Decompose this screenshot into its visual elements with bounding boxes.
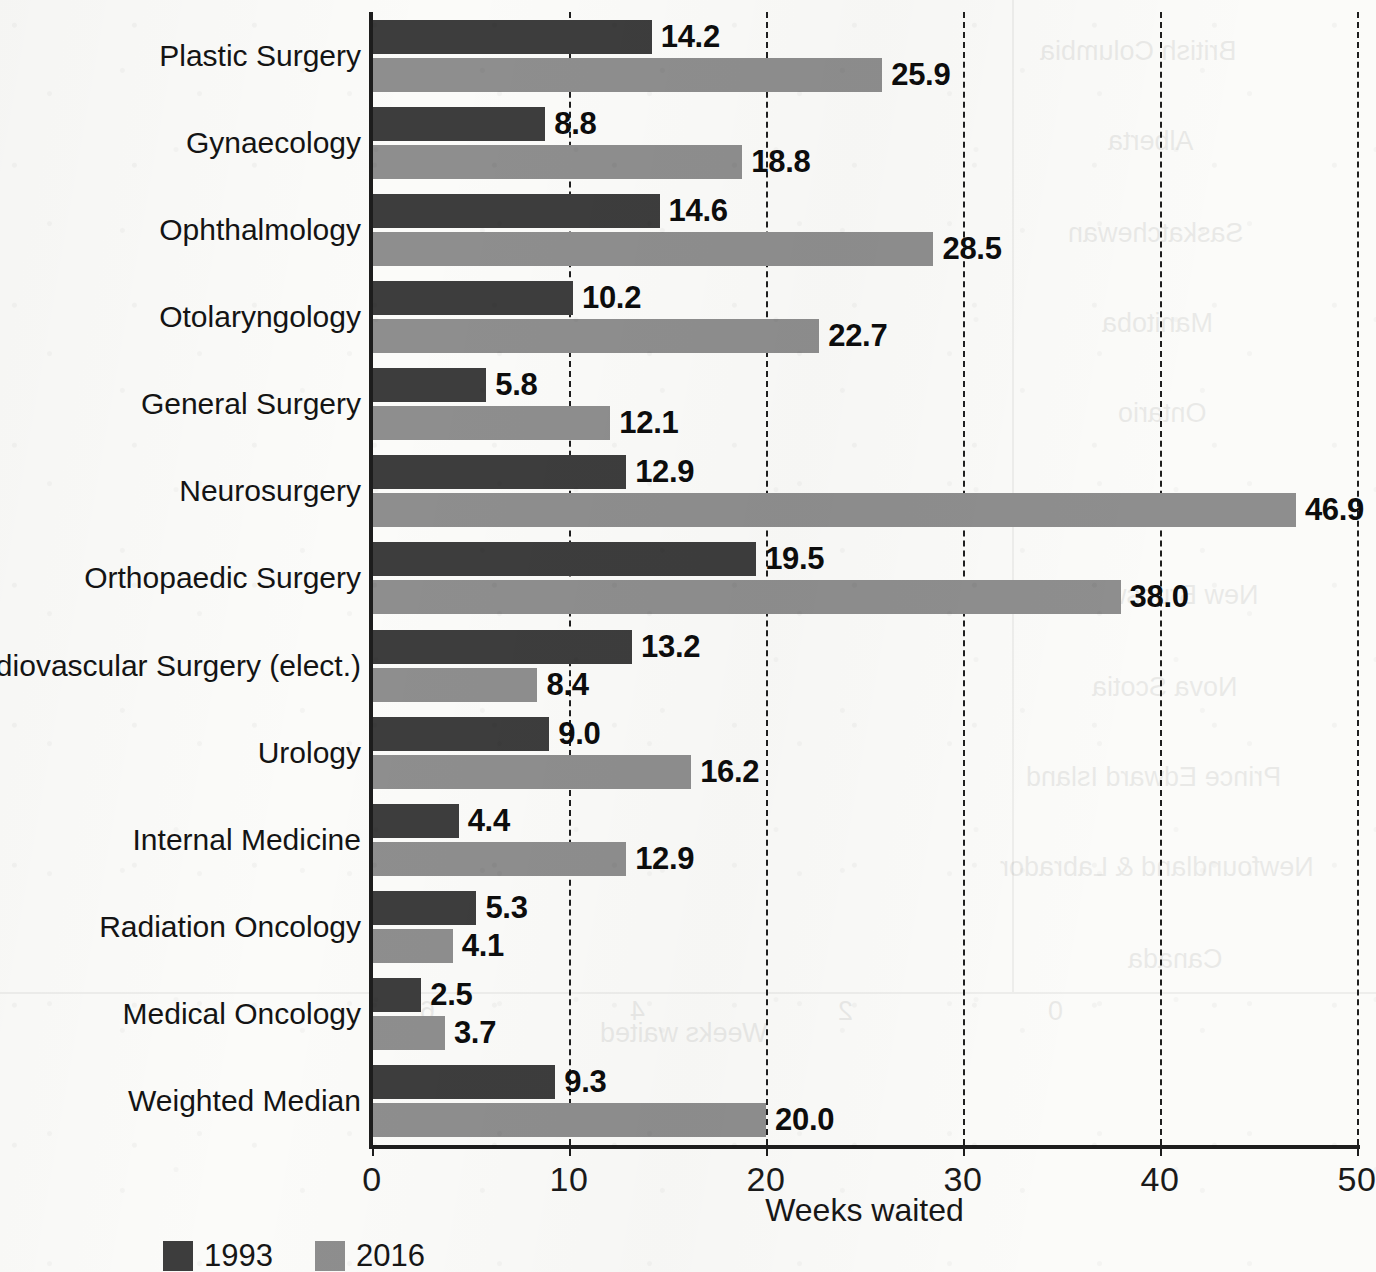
category-label: Weighted Median bbox=[0, 1086, 361, 1116]
gridline-50 bbox=[1357, 12, 1359, 1145]
bar-row: Radiation Oncology5.34.1 bbox=[372, 884, 1357, 971]
bar-1993[interactable] bbox=[372, 194, 660, 228]
bar-1993[interactable] bbox=[372, 455, 626, 489]
x-tick-mark-10 bbox=[569, 1145, 571, 1156]
x-tick-mark-50 bbox=[1357, 1145, 1359, 1156]
legend-label-1993: 1993 bbox=[204, 1240, 273, 1271]
category-label: Gynaecology bbox=[0, 128, 361, 158]
category-label: Radiation Oncology bbox=[0, 912, 361, 942]
bar-value-label: 13.2 bbox=[641, 630, 700, 664]
x-tick-mark-30 bbox=[963, 1145, 965, 1156]
legend-label-2016: 2016 bbox=[356, 1240, 425, 1271]
bar-row: Cardiovascular Surgery (elect.)13.28.4 bbox=[372, 622, 1357, 709]
bar-2016[interactable] bbox=[372, 406, 610, 440]
bar-value-label: 5.3 bbox=[485, 891, 527, 925]
bar-row: Internal Medicine4.412.9 bbox=[372, 796, 1357, 883]
x-tick-mark-20 bbox=[766, 1145, 768, 1156]
bar-value-label: 3.7 bbox=[454, 1016, 496, 1050]
bar-row: Neurosurgery12.946.9 bbox=[372, 448, 1357, 535]
bar-value-label: 20.0 bbox=[775, 1103, 834, 1137]
bar-value-label: 19.5 bbox=[765, 542, 824, 576]
bar-2016[interactable] bbox=[372, 145, 742, 179]
bar-1993[interactable] bbox=[372, 630, 632, 664]
legend-swatch-icon-1993 bbox=[163, 1241, 193, 1271]
bar-1993[interactable] bbox=[372, 20, 652, 54]
bar-row: Orthopaedic Surgery19.538.0 bbox=[372, 535, 1357, 622]
bar-row: Gynaecology8.818.8 bbox=[372, 99, 1357, 186]
legend-swatch-icon-2016 bbox=[315, 1241, 345, 1271]
bar-1993[interactable] bbox=[372, 891, 476, 925]
bar-2016[interactable] bbox=[372, 668, 537, 702]
bar-1993[interactable] bbox=[372, 542, 756, 576]
bar-value-label: 8.4 bbox=[546, 668, 588, 702]
bar-value-label: 46.9 bbox=[1305, 493, 1364, 527]
chart-legend: 1993 2016 bbox=[163, 1240, 425, 1271]
bar-2016[interactable] bbox=[372, 842, 626, 876]
category-label: Medical Oncology bbox=[0, 999, 361, 1029]
bar-2016[interactable] bbox=[372, 493, 1296, 527]
bar-value-label: 9.0 bbox=[558, 717, 600, 751]
bar-value-label: 5.8 bbox=[495, 368, 537, 402]
x-tick-mark-40 bbox=[1160, 1145, 1162, 1156]
bar-1993[interactable] bbox=[372, 978, 421, 1012]
bar-value-label: 10.2 bbox=[582, 281, 641, 315]
bar-value-label: 38.0 bbox=[1130, 580, 1189, 614]
bar-1993[interactable] bbox=[372, 107, 545, 141]
y-axis-line bbox=[369, 12, 373, 1145]
bar-row: Otolaryngology10.222.7 bbox=[372, 273, 1357, 360]
bar-value-label: 4.1 bbox=[462, 929, 504, 963]
category-label: Otolaryngology bbox=[0, 302, 361, 332]
bar-value-label: 18.8 bbox=[751, 145, 810, 179]
category-label: Neurosurgery bbox=[0, 476, 361, 506]
bar-2016[interactable] bbox=[372, 319, 819, 353]
bar-1993[interactable] bbox=[372, 717, 549, 751]
category-label: Ophthalmology bbox=[0, 215, 361, 245]
bar-row: Ophthalmology14.628.5 bbox=[372, 186, 1357, 273]
x-tick-mark-0 bbox=[372, 1145, 374, 1156]
bar-1993[interactable] bbox=[372, 804, 459, 838]
bar-value-label: 12.1 bbox=[619, 406, 678, 440]
bar-value-label: 16.2 bbox=[700, 755, 759, 789]
bar-value-label: 25.9 bbox=[891, 58, 950, 92]
bar-value-label: 12.9 bbox=[635, 842, 694, 876]
chart-page: British Columbia Alberta Saskatchewan Ma… bbox=[0, 0, 1376, 1272]
category-label: Orthopaedic Surgery bbox=[0, 563, 361, 593]
legend-item-2016[interactable]: 2016 bbox=[315, 1240, 425, 1271]
category-label: Plastic Surgery bbox=[0, 41, 361, 71]
category-label: Internal Medicine bbox=[0, 825, 361, 855]
bar-value-label: 4.4 bbox=[468, 804, 510, 838]
plot-area: 01020304050 Plastic Surgery14.225.9Gynae… bbox=[372, 12, 1357, 1145]
bar-row: General Surgery5.812.1 bbox=[372, 361, 1357, 448]
legend-item-1993[interactable]: 1993 bbox=[163, 1240, 273, 1271]
bar-2016[interactable] bbox=[372, 1103, 766, 1137]
bar-value-label: 8.8 bbox=[554, 107, 596, 141]
bar-2016[interactable] bbox=[372, 1016, 445, 1050]
x-axis-title: Weeks waited bbox=[372, 1192, 1357, 1229]
bar-value-label: 22.7 bbox=[828, 319, 887, 353]
bar-2016[interactable] bbox=[372, 58, 882, 92]
category-label: General Surgery bbox=[0, 389, 361, 419]
bar-2016[interactable] bbox=[372, 580, 1121, 614]
bar-row: Weighted Median9.320.0 bbox=[372, 1058, 1357, 1145]
bar-value-label: 14.6 bbox=[669, 194, 728, 228]
bar-2016[interactable] bbox=[372, 232, 933, 266]
bar-value-label: 12.9 bbox=[635, 455, 694, 489]
bar-1993[interactable] bbox=[372, 368, 486, 402]
x-axis-line bbox=[369, 1145, 1360, 1149]
bar-value-label: 2.5 bbox=[430, 978, 472, 1012]
bar-row: Plastic Surgery14.225.9 bbox=[372, 12, 1357, 99]
bar-value-label: 28.5 bbox=[942, 232, 1001, 266]
bar-row: Medical Oncology2.53.7 bbox=[372, 971, 1357, 1058]
bar-row: Urology9.016.2 bbox=[372, 709, 1357, 796]
bar-1993[interactable] bbox=[372, 1065, 555, 1099]
bar-1993[interactable] bbox=[372, 281, 573, 315]
bar-2016[interactable] bbox=[372, 929, 453, 963]
bar-value-label: 9.3 bbox=[564, 1065, 606, 1099]
category-label: Cardiovascular Surgery (elect.) bbox=[0, 651, 361, 681]
bar-2016[interactable] bbox=[372, 755, 691, 789]
category-label: Urology bbox=[0, 738, 361, 768]
bar-value-label: 14.2 bbox=[661, 20, 720, 54]
